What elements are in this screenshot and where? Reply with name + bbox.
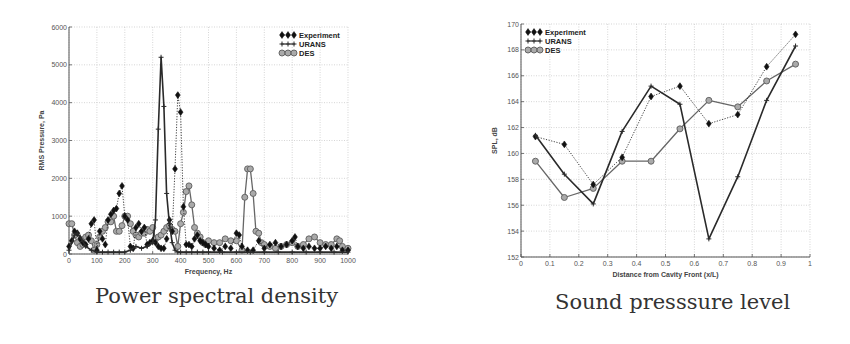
- diamond-marker: [280, 32, 285, 39]
- x-tick-label: 0.9: [776, 260, 786, 267]
- diamond-marker: [173, 165, 178, 172]
- spl-caption: Sound presssure level: [555, 290, 790, 314]
- diamond-marker: [117, 190, 122, 197]
- y-tick-label: 156: [507, 202, 519, 209]
- circle-marker: [525, 47, 531, 53]
- diamond-marker: [526, 29, 531, 36]
- y-tick-label: 170: [507, 21, 519, 28]
- plus-marker: [161, 104, 166, 109]
- plus-marker: [532, 39, 537, 44]
- legend-label-des: DES: [299, 49, 314, 58]
- x-tick-label: 0.6: [690, 260, 700, 267]
- circle-marker: [178, 221, 184, 227]
- y-tick-label: 168: [507, 46, 519, 53]
- circle-marker: [247, 166, 253, 172]
- y-tick-label: 4000: [51, 99, 67, 106]
- y-tick-label: 162: [507, 124, 519, 131]
- x-tick-label: 400: [175, 257, 187, 264]
- legend-label-urans: URANS: [545, 37, 572, 46]
- y-tick-label: 0: [63, 251, 67, 258]
- y-tick-label: 154: [507, 228, 519, 235]
- y-axis-label: RMS Pressure, Pa: [38, 110, 46, 170]
- legend-label-experiment: Experiment: [299, 31, 340, 40]
- spl-chart-panel: 00.10.20.30.40.50.60.70.80.9115215415615…: [425, 0, 850, 344]
- circle-marker: [189, 202, 195, 208]
- circle-marker: [677, 126, 683, 132]
- circle-marker: [337, 238, 343, 244]
- x-tick-label: 900: [314, 257, 326, 264]
- diamond-marker: [312, 245, 317, 252]
- diamond-marker: [223, 243, 228, 250]
- x-tick-label: 0: [519, 260, 523, 267]
- diamond-marker: [228, 245, 233, 252]
- diamond-marker: [538, 29, 543, 36]
- circle-marker: [531, 47, 537, 53]
- psd-chart: 0100200300400500600700800900100001000200…: [0, 0, 425, 290]
- plus-marker: [286, 42, 291, 47]
- x-tick-label: 100: [91, 257, 103, 264]
- circle-marker: [735, 104, 741, 110]
- x-tick-label: 600: [231, 257, 243, 264]
- y-tick-label: 152: [507, 254, 519, 261]
- x-tick-label: 0.5: [661, 260, 671, 267]
- y-tick-label: 3000: [51, 137, 67, 144]
- x-tick-label: 0.2: [574, 260, 584, 267]
- circle-marker: [242, 194, 248, 200]
- plus-marker: [526, 39, 531, 44]
- legend-label-des: DES: [545, 46, 560, 55]
- circle-marker: [233, 238, 239, 244]
- plus-marker: [170, 240, 175, 245]
- y-tick-label: 164: [507, 98, 519, 105]
- circle-marker: [69, 221, 75, 227]
- y-tick-label: 5000: [51, 61, 67, 68]
- diamond-marker: [164, 235, 169, 242]
- diamond-marker: [307, 243, 312, 250]
- legend-label-experiment: Experiment: [545, 28, 586, 37]
- spl-chart: 00.10.20.30.40.50.60.70.80.9115215415615…: [425, 0, 850, 290]
- circle-marker: [561, 194, 567, 200]
- circle-marker: [116, 228, 122, 234]
- circle-marker: [532, 158, 538, 164]
- x-tick-label: 0.4: [632, 260, 642, 267]
- circle-marker: [706, 97, 712, 103]
- diamond-marker: [120, 183, 125, 190]
- x-tick-label: 0.8: [747, 260, 757, 267]
- x-tick-label: 0.3: [603, 260, 613, 267]
- y-axis-label: SPL, dB: [491, 127, 499, 154]
- x-tick-label: 0: [67, 257, 71, 264]
- x-tick-label: 300: [147, 257, 159, 264]
- diamond-marker: [706, 120, 711, 127]
- plus-marker: [153, 217, 158, 222]
- diamond-marker: [273, 239, 278, 246]
- diamond-marker: [103, 241, 108, 248]
- circle-marker: [217, 240, 223, 246]
- diamond-marker: [161, 245, 166, 252]
- plus-marker: [538, 39, 543, 44]
- circle-marker: [793, 61, 799, 67]
- y-tick-label: 158: [507, 176, 519, 183]
- circle-marker: [648, 158, 654, 164]
- circle-marker: [119, 223, 125, 229]
- circle-marker: [285, 50, 291, 56]
- psd-chart-panel: 0100200300400500600700800900100001000200…: [0, 0, 425, 344]
- x-tick-label: 800: [286, 257, 298, 264]
- x-axis-label: Distance from Cavity Front (x/L): [612, 271, 718, 279]
- y-tick-label: 2000: [51, 175, 67, 182]
- circle-marker: [256, 230, 262, 236]
- diamond-marker: [178, 109, 183, 116]
- plus-marker: [164, 191, 169, 196]
- diamond-marker: [532, 29, 537, 36]
- circle-marker: [764, 78, 770, 84]
- circle-marker: [183, 189, 189, 195]
- x-axis-label: Frequency, Hz: [185, 268, 233, 276]
- circle-marker: [279, 50, 285, 56]
- diamond-marker: [286, 32, 291, 39]
- x-tick-label: 200: [119, 257, 131, 264]
- x-tick-label: 1: [808, 260, 812, 267]
- y-tick-label: 166: [507, 72, 519, 79]
- legend-label-urans: URANS: [299, 40, 326, 49]
- diamond-marker: [678, 83, 683, 90]
- plus-marker: [139, 246, 144, 251]
- diamond-marker: [175, 92, 180, 99]
- circle-marker: [250, 190, 256, 196]
